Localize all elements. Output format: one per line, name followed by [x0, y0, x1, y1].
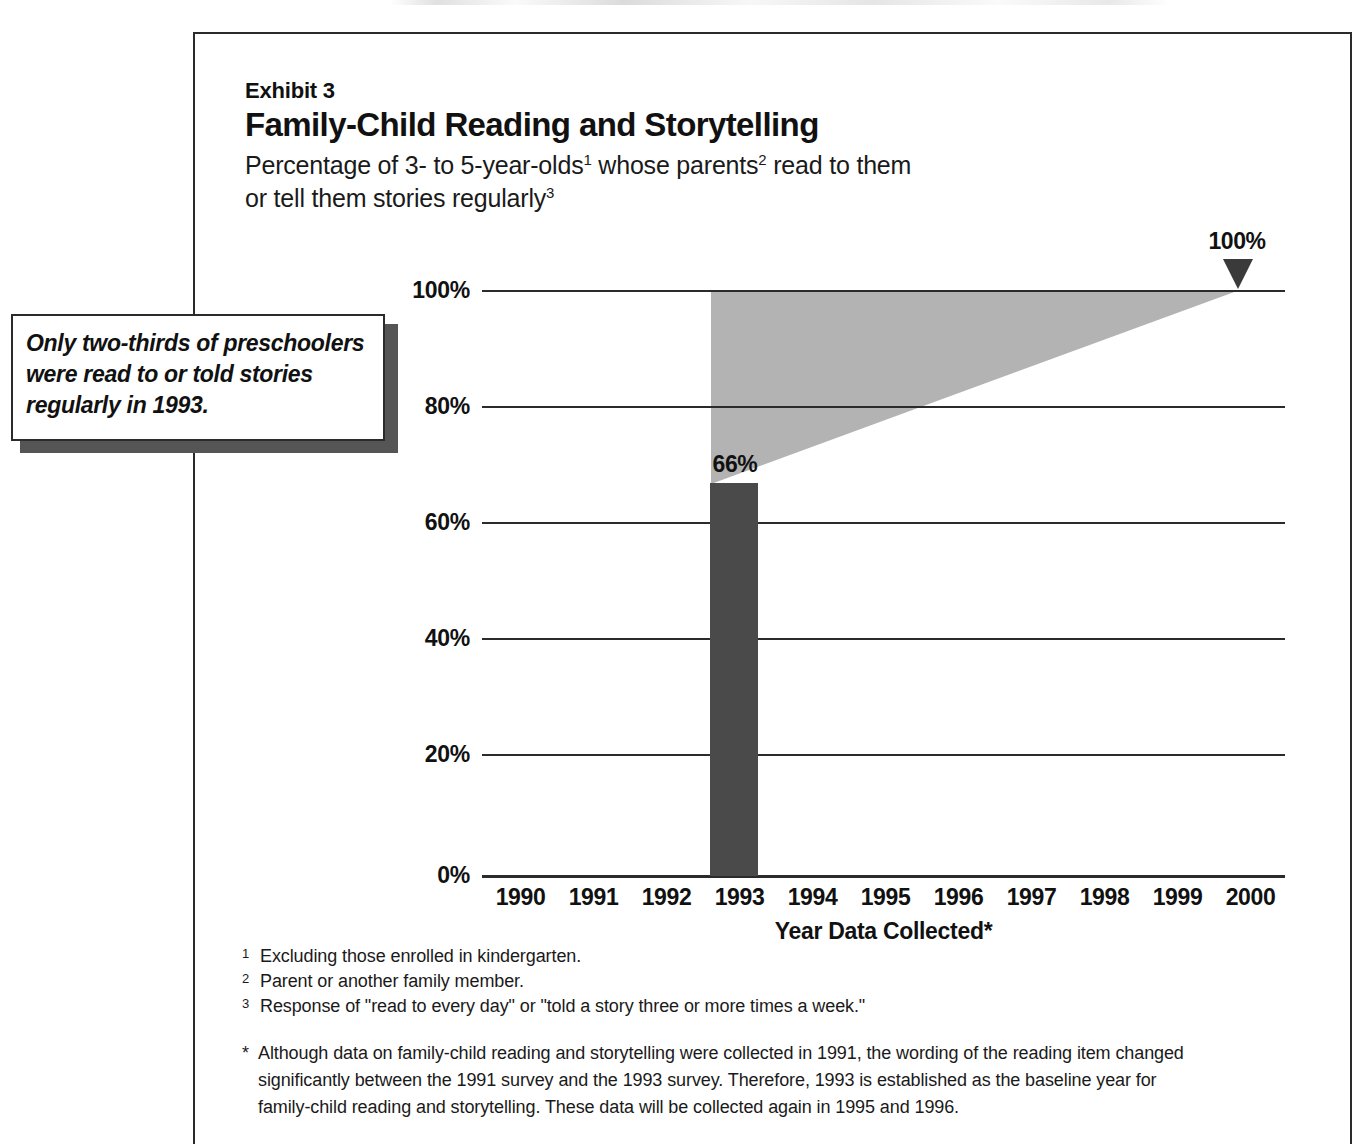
- footnote-ref-3: 3: [546, 184, 554, 201]
- footnote-item-star: * Although data on family-child reading …: [242, 1040, 1202, 1121]
- footnote-text-3: Response of "read to every day" or "told…: [260, 994, 1202, 1019]
- scan-artifact: [390, 0, 1170, 5]
- footnote-ref-1: 1: [583, 151, 591, 168]
- chart-subtitle: Percentage of 3- to 5-year-olds1 whose p…: [245, 149, 1145, 215]
- footnote-marker-star: *: [242, 1040, 258, 1067]
- exhibit-label: Exhibit 3: [245, 78, 1145, 104]
- exhibit-header: Exhibit 3 Family-Child Reading and Story…: [245, 78, 1145, 215]
- footnote-item-1: 1 Excluding those enrolled in kindergart…: [242, 944, 1202, 969]
- subtitle-part-2: whose parents: [592, 151, 759, 179]
- footnote-marker-2: 2: [242, 969, 260, 988]
- footnote-marker-1: 1: [242, 944, 260, 963]
- footnote-item-3: 3 Response of "read to every day" or "to…: [242, 994, 1202, 1019]
- callout-box: Only two-thirds of preschoolers were rea…: [11, 314, 398, 454]
- footnote-text-2: Parent or another family member.: [260, 969, 1202, 994]
- footnote-text-1: Excluding those enrolled in kindergarten…: [260, 944, 1202, 969]
- footnote-item-2: 2 Parent or another family member.: [242, 969, 1202, 994]
- callout-text: Only two-thirds of preschoolers were rea…: [26, 328, 371, 421]
- subtitle-part-1: Percentage of 3- to 5-year-olds: [245, 151, 583, 179]
- footnote-ref-2: 2: [758, 151, 766, 168]
- footnote-list: 1 Excluding those enrolled in kindergart…: [242, 944, 1202, 1019]
- page-title: Family-Child Reading and Storytelling: [245, 105, 1145, 145]
- footnote-text-star: Although data on family-child reading an…: [258, 1040, 1202, 1121]
- subtitle-part-3: read to them: [767, 151, 912, 179]
- footnote-marker-3: 3: [242, 994, 260, 1013]
- subtitle-part-4: or tell them stories regularly: [245, 184, 546, 212]
